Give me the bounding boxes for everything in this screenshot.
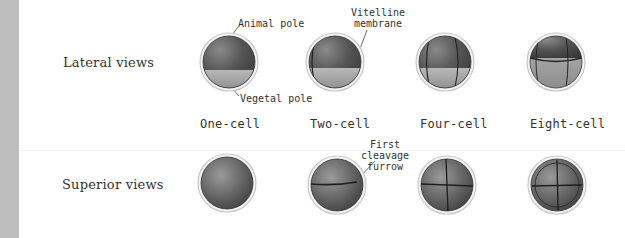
- annotation-animal-pole: Animal pole: [238, 18, 304, 29]
- embryo-superior-two-cell: [307, 155, 367, 215]
- embryo-lateral-four-cell: [415, 32, 475, 92]
- row-divider: [19, 150, 625, 151]
- stage-label-one-cell: One-cell: [200, 117, 260, 131]
- embryo-lateral-one-cell: [199, 32, 259, 92]
- embryo-lateral-two-cell: [305, 32, 365, 92]
- left-margin-strip: [0, 0, 19, 238]
- stage-label-two-cell: Two-cell: [310, 117, 370, 131]
- stage-label-eight-cell: Eight-cell: [530, 117, 605, 131]
- row-label-lateral: Lateral views: [63, 55, 154, 70]
- annotation-vitelline-line2: membrane: [348, 18, 408, 29]
- embryo-superior-four-cell: [417, 155, 477, 215]
- row-label-superior: Superior views: [62, 177, 164, 192]
- stage-label-four-cell: Four-cell: [420, 117, 488, 131]
- embryo-superior-one-cell: [197, 153, 257, 213]
- annotation-vitelline-membrane: Vitelline membrane: [348, 7, 408, 29]
- annotation-vitelline-line1: Vitelline: [348, 7, 408, 18]
- embryo-lateral-eight-cell: [526, 32, 586, 92]
- annotation-vegetal-pole: Vegetal pole: [240, 93, 312, 104]
- embryo-superior-eight-cell: [527, 155, 587, 215]
